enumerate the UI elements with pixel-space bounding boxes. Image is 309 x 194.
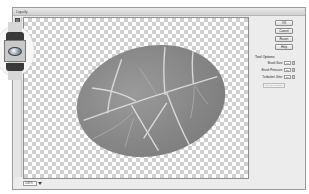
turbulent-jitter-input[interactable]: 50 (284, 75, 291, 79)
turbulent-jitter-dropdown-icon[interactable] (292, 75, 295, 79)
window-title: Liquify (16, 8, 28, 15)
ok-button[interactable]: OK (275, 20, 293, 26)
brush-size-dropdown-icon[interactable] (292, 61, 295, 65)
brush-pressure-input[interactable]: 50 (284, 68, 291, 72)
cancel-button[interactable]: Cancel (275, 28, 293, 34)
brush-size-input[interactable]: 64 (284, 61, 291, 65)
chevron-down-icon[interactable] (38, 182, 42, 185)
brush-size-label: Brush Size: (268, 61, 283, 65)
magnified-tool-below (6, 63, 24, 71)
zoom-level-select[interactable]: 100% (23, 181, 37, 186)
turbulent-jitter-label: Turbulent Jitter: (262, 75, 283, 79)
help-button[interactable]: Help (275, 44, 293, 50)
tool-options-heading: Tool Options (255, 55, 274, 59)
title-bar[interactable]: Liquify (13, 8, 305, 16)
stylus-pressure-checkbox[interactable]: Stylus Pressure (263, 83, 285, 88)
leaf-image (66, 32, 236, 171)
brush-pressure-label: Brush Pressure: (261, 68, 283, 72)
tool-magnifier-callout (0, 22, 36, 80)
revert-button[interactable]: Revert (275, 36, 293, 42)
brush-size-field: Brush Size: 64 (255, 61, 295, 66)
magnified-tool-above (6, 32, 24, 40)
brush-pressure-field: Brush Pressure: 50 (255, 68, 295, 73)
preview-canvas[interactable] (23, 17, 249, 179)
liquify-dialog: Liquify (12, 7, 306, 190)
brush-pressure-dropdown-icon[interactable] (292, 68, 295, 72)
magnified-selected-tool (4, 40, 26, 62)
leaf-veins (66, 32, 236, 171)
bloat-tool-icon (8, 47, 22, 56)
turbulent-jitter-field: Turbulent Jitter: 50 (255, 75, 295, 80)
